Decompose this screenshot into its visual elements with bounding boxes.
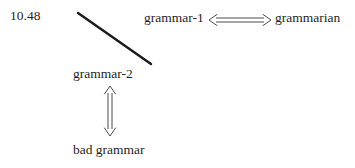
up-down-double-arrow-icon: [103, 85, 117, 137]
diagonal-line-icon: [0, 0, 355, 168]
figure-number-label: 10.48: [10, 9, 40, 23]
node-label-bad-grammar: bad grammar: [73, 143, 145, 157]
figure-canvas: 10.48 grammar-1 grammarian grammar-2 bad…: [0, 0, 355, 168]
long-left-right-double-arrow-icon: [208, 13, 272, 27]
node-label-grammar-2: grammar-2: [73, 67, 133, 81]
node-label-grammar-1: grammar-1: [144, 11, 204, 25]
node-label-grammarian: grammarian: [275, 11, 340, 25]
